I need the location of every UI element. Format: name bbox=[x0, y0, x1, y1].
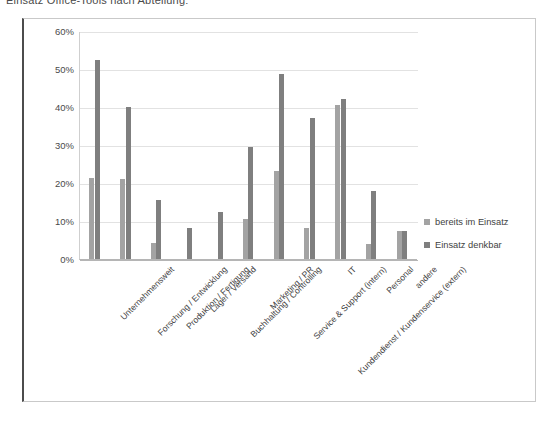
y-axis-tick-label: 40% bbox=[55, 103, 74, 113]
legend-label: Einsatz denkbar bbox=[435, 240, 502, 250]
bar-group bbox=[80, 32, 111, 259]
y-axis-tick-label: 30% bbox=[55, 141, 74, 151]
y-axis-tick-label: 50% bbox=[55, 65, 74, 75]
bar-group bbox=[357, 32, 388, 259]
bar-group bbox=[172, 32, 203, 259]
bar bbox=[218, 212, 223, 260]
bar-group bbox=[295, 32, 326, 259]
plot-area: 0%10%20%30%40%50%60% bbox=[79, 32, 417, 260]
bar bbox=[402, 231, 407, 259]
x-axis-label: IT bbox=[346, 265, 357, 276]
bar-group bbox=[234, 32, 265, 259]
chart-legend: bereits im EinsatzEinsatz denkbar bbox=[424, 217, 508, 263]
legend-item[interactable]: Einsatz denkbar bbox=[424, 240, 508, 250]
chart-frame: 0%10%20%30%40%50%60% UnternehmensweitFor… bbox=[22, 18, 536, 402]
bar bbox=[335, 105, 340, 259]
bar bbox=[248, 147, 253, 259]
bar bbox=[341, 99, 346, 259]
bar-group bbox=[203, 32, 234, 259]
bar bbox=[310, 118, 315, 259]
bar bbox=[279, 74, 284, 259]
bar bbox=[156, 200, 161, 259]
x-axis-label: Unternehmensweit bbox=[119, 265, 176, 322]
bar-group bbox=[111, 32, 142, 259]
y-axis-tick-label: 60% bbox=[55, 27, 74, 37]
gridline bbox=[80, 260, 418, 261]
legend-item[interactable]: bereits im Einsatz bbox=[424, 217, 508, 227]
bar-group bbox=[264, 32, 295, 259]
bar bbox=[89, 178, 94, 259]
x-axis-label: Service & Support (intern) bbox=[312, 265, 388, 341]
bar bbox=[151, 243, 156, 259]
bar-group bbox=[141, 32, 172, 259]
y-axis-tick-label: 0% bbox=[60, 255, 74, 265]
x-axis-label: Buchhaltung / Controlling bbox=[249, 265, 323, 339]
bar bbox=[397, 231, 402, 259]
bar bbox=[126, 107, 131, 259]
bar bbox=[95, 60, 100, 260]
chart-caption: Einsatz Office-Tools nach Abteilung: bbox=[6, 0, 189, 6]
y-axis-tick-label: 20% bbox=[55, 179, 74, 189]
bar bbox=[243, 219, 248, 259]
bar bbox=[371, 191, 376, 259]
x-axis-label: andere bbox=[413, 265, 438, 290]
bar bbox=[366, 244, 371, 259]
bar bbox=[304, 228, 309, 259]
legend-swatch-icon bbox=[424, 242, 430, 248]
x-axis-label: Personal bbox=[385, 265, 415, 295]
bar bbox=[274, 171, 279, 259]
x-axis-label: Marketing / PR bbox=[269, 265, 315, 311]
bar-group bbox=[326, 32, 357, 259]
bar bbox=[187, 228, 192, 259]
bar bbox=[120, 179, 125, 259]
legend-swatch-icon bbox=[424, 219, 430, 225]
chart-page: Einsatz Office-Tools nach Abteilung: 0%1… bbox=[0, 0, 548, 428]
bar-group bbox=[387, 32, 418, 259]
legend-label: bereits im Einsatz bbox=[435, 217, 508, 227]
y-axis-tick-label: 10% bbox=[55, 217, 74, 227]
